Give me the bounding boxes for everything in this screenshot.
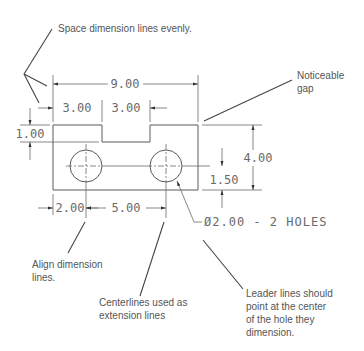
dim-text-2-00: 2.00 [56,201,85,215]
dim-text-9-00: 9.00 [111,77,140,91]
dim-text-1-00: 1.00 [16,127,45,141]
note-leader-line3: of the hole they [246,314,314,325]
note-centerlines-line1: Centerlines used as [99,297,187,308]
note-align-line1: Align dimension [32,259,103,270]
note-noticeable-gap-line1: Noticeable [297,70,345,81]
dim-text-5-00: 5.00 [112,201,141,215]
hole-spec-text: Ø2.00 - 2 HOLES [204,215,327,229]
note-noticeable-gap-line2: gap [297,83,314,94]
dim-hole-spacing: 5.00 [86,201,166,215]
note-leader-line2: point at the center [246,301,327,312]
extension-lines [20,75,262,215]
note-leader-line4: dimension. [246,327,294,338]
dim-overall-width: 9.00 [53,77,198,91]
dim-text-3-00-notch: 3.00 [112,101,141,115]
dim-text-1-50: 1.50 [210,173,239,187]
part-outline [53,125,198,190]
dim-hole-height: 1.50 [210,148,239,208]
note-align-line2: lines. [32,272,55,283]
dim-overall-height: 4.00 [244,125,273,190]
note-leader-line1: Leader lines should [246,288,333,299]
dim-text-3-00-left: 3.00 [63,101,92,115]
dim-notch-depth: 1.00 [16,108,45,160]
engineering-drawing: 9.00 3.00 3.00 1.00 4.00 1.50 2.00 5.00 [0,0,364,351]
note-centerlines-line2: extension lines [99,310,165,321]
dim-notch-width: 3.00 [112,101,167,115]
dim-left-shoulder: 3.00 [38,101,91,115]
note-space-evenly: Space dimension lines evenly. [58,23,192,34]
hole-callout: Ø2.00 - 2 HOLES [177,181,327,229]
dim-text-4-00: 4.00 [244,151,273,165]
